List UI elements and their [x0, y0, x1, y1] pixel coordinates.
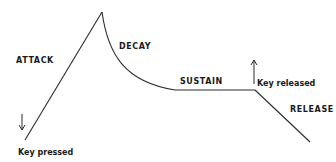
attack-label: ATTACK — [16, 56, 54, 65]
key-released-label: Key released — [257, 79, 316, 88]
decay-segment — [102, 12, 175, 90]
sustain-label: SUSTAIN — [180, 77, 223, 86]
attack-segment — [25, 12, 102, 140]
release-segment — [255, 90, 310, 142]
decay-label: DECAY — [119, 42, 151, 51]
adsr-envelope-diagram: ATTACK DECAY SUSTAIN RELEASE Key pressed… — [0, 0, 336, 162]
key-pressed-label: Key pressed — [18, 148, 74, 157]
release-label: RELEASE — [290, 105, 334, 114]
envelope-curve — [25, 12, 310, 142]
down-arrow-icon — [19, 114, 25, 130]
